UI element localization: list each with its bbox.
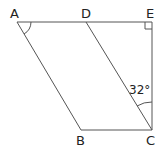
angle-arc-c [137,102,152,106]
segment-dc [86,22,152,130]
label-a: A [10,6,19,21]
segment-ab [17,22,81,130]
angle-arc-a [24,22,31,34]
right-angle-mark-e [145,22,152,29]
angle-label-32: 32° [129,83,150,97]
label-e: E [146,6,154,21]
label-b: B [76,133,85,148]
label-c: C [146,133,155,148]
geometry-diagram: A D E B C 32° [0,0,167,152]
label-d: D [81,6,91,21]
